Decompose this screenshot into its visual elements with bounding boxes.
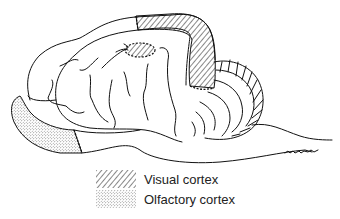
legend-label: Olfactory cortex: [144, 192, 235, 207]
legend: Visual cortex Olfactory cortex: [96, 170, 256, 216]
legend-item-olfactory-cortex: Olfactory cortex: [96, 190, 256, 208]
brainstem-outline: [82, 146, 312, 163]
stipple-swatch-icon: [96, 190, 136, 208]
sulci: [48, 44, 176, 136]
olfactory-cortex-region: [12, 96, 82, 153]
visual-cortex-region: [125, 14, 215, 90]
legend-item-visual-cortex: Visual cortex: [96, 170, 256, 188]
hatch-swatch-icon: [96, 170, 136, 188]
legend-label: Visual cortex: [144, 172, 218, 187]
